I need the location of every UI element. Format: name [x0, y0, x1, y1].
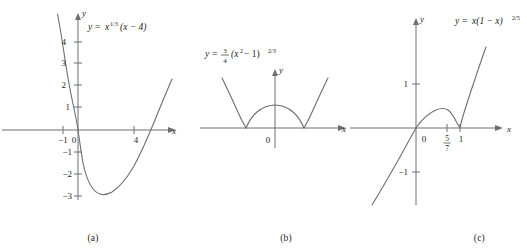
y-tick-label-3: 3 — [62, 58, 67, 68]
equation-b-base-exponent: 2 — [240, 47, 243, 54]
equation-b-base-rest: − 1) — [244, 49, 260, 60]
equation-c: y = x(1 − x) 2/5 — [454, 14, 520, 28]
x-tick-label-5-7-numerator: 5 — [445, 134, 449, 143]
y-axis-label-c: y — [419, 14, 424, 24]
y-tick-label-1: 1 — [66, 102, 71, 112]
y-axis-arrowhead — [75, 13, 81, 20]
panel-a-plot: y x 4 3 2 1 −1 −2 −3 −1 4 0 y = x 1/3 (x… — [0, 0, 180, 215]
curve-c — [372, 47, 486, 205]
equation-b-equals: = — [212, 49, 217, 59]
y-tick-label-1: 1 — [404, 79, 409, 89]
panel-a: y x 4 3 2 1 −1 −2 −3 −1 4 0 y = x 1/3 (x… — [0, 0, 180, 251]
equation-a-equals: = — [95, 22, 100, 32]
panel-a-caption: (a) — [0, 233, 180, 243]
y-tick-label-2: 2 — [62, 80, 67, 90]
curve-b-left-branch — [222, 78, 246, 128]
y-tick-label-minus-2: −2 — [62, 169, 72, 179]
curve-a — [58, 14, 173, 194]
origin-label-c: 0 — [422, 134, 427, 144]
panel-c-caption: (c) — [350, 233, 527, 243]
x-tick-label-4: 4 — [134, 135, 139, 145]
equation-b-fraction-denominator: 4 — [223, 57, 227, 65]
equation-c-lhs: y — [454, 16, 460, 26]
y-tick-label-minus-3: −3 — [62, 191, 72, 201]
figure-three-graph-panels: y x 4 3 2 1 −1 −2 −3 −1 4 0 y = x 1/3 (x… — [0, 0, 527, 251]
x-tick-label-1: 1 — [459, 134, 464, 144]
panel-b-caption: (b) — [180, 233, 360, 243]
x-axis-arrowhead — [495, 125, 503, 131]
y-tick-label-4: 4 — [62, 37, 67, 47]
y-tick-label-minus-1: −1 — [62, 147, 72, 157]
origin-label-a: 0 — [72, 135, 77, 145]
equation-b-lhs: y — [204, 49, 210, 59]
equation-c-base: x(1 − x) — [471, 16, 503, 27]
equation-a-factor: (x − 4) — [120, 22, 146, 33]
origin-label-b: 0 — [266, 135, 271, 145]
y-axis-arrowhead — [272, 69, 278, 76]
equation-a-exponent: 1/3 — [110, 20, 118, 27]
panel-b: y x 0 y = 3 4 (x 2 − 1) 2/3 (b) — [180, 0, 360, 251]
x-axis-label-c: x — [506, 124, 511, 134]
equation-c-equals: = — [462, 16, 467, 26]
x-axis-label-a: x — [171, 126, 176, 136]
y-axis-arrowhead — [413, 18, 419, 25]
y-tick-label-minus-1: −1 — [398, 167, 408, 177]
equation-c-exponent: 2/5 — [512, 14, 520, 21]
equation-a-lhs: y — [87, 22, 93, 32]
curve-b-right-branch — [304, 78, 328, 128]
y-axis-label-b: y — [278, 65, 283, 75]
equation-b-exponent: 2/3 — [268, 47, 276, 54]
panel-b-plot: y x 0 y = 3 4 (x 2 − 1) 2/3 — [180, 0, 360, 215]
x-tick-label-minus-1: −1 — [58, 135, 68, 145]
panel-c-plot: y x 1 −1 0 5 7 1 y = x(1 − x) 2/5 — [350, 0, 527, 215]
equation-b-base: (x — [231, 49, 239, 60]
y-axis-label-a: y — [81, 8, 86, 18]
equation-b: y = 3 4 (x 2 − 1) 2/3 — [204, 47, 276, 66]
equation-b-fraction-numerator: 3 — [223, 47, 227, 55]
equation-a: y = x 1/3 (x − 4) — [87, 20, 146, 34]
x-axis-label-b: x — [341, 124, 346, 134]
x-tick-label-5-7-denominator: 7 — [445, 144, 449, 153]
panel-c: y x 1 −1 0 5 7 1 y = x(1 − x) 2/5 (c) — [350, 0, 527, 251]
